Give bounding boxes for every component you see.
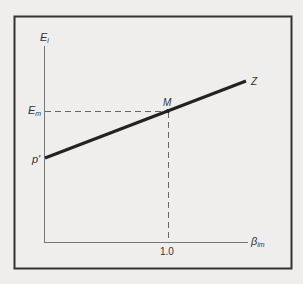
line-end-label: Z xyxy=(250,76,258,87)
diagram-canvas: Ei Em p' M Z 1.0 βim xyxy=(0,0,303,284)
intercept-label: p' xyxy=(31,153,41,165)
x-axis-label: βim xyxy=(250,235,265,248)
outer-frame xyxy=(15,17,292,269)
point-m-marker xyxy=(166,109,170,113)
y-axis-label: Ei xyxy=(40,31,49,44)
x-tick-label: 1.0 xyxy=(160,246,174,257)
point-m-label: M xyxy=(163,97,172,108)
em-label: Em xyxy=(28,104,41,117)
security-market-line xyxy=(45,81,246,158)
